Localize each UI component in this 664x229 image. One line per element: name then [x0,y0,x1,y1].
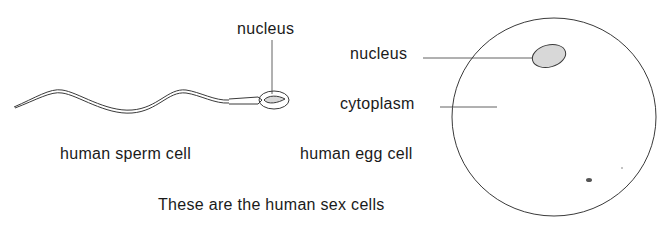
figure-caption: These are the human sex cells [158,196,385,214]
diagram-canvas [0,0,664,229]
sperm-nucleus-label: nucleus [237,20,294,38]
sperm-cell-caption: human sperm cell [60,145,191,163]
egg-cell [423,18,656,216]
sperm-midpiece [229,97,262,104]
sperm-tail [14,90,229,110]
sperm-cell [14,40,289,113]
egg-nucleus-label: nucleus [350,45,407,63]
egg-nucleus-shape [530,41,569,71]
sperm-nucleus-shape [264,96,285,103]
egg-cell-caption: human egg cell [300,145,413,163]
egg-cytoplasm-label: cytoplasm [340,95,415,113]
